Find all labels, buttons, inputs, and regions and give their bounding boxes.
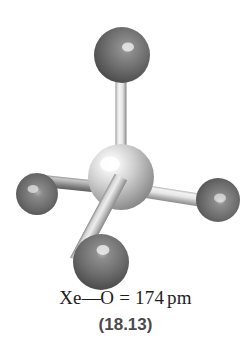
caption-block: Xe—O = 174pm (18.13) — [0, 286, 251, 336]
bond-length-dash: — — [82, 287, 101, 308]
bond-length-ligand-atom: O — [100, 287, 114, 308]
bond-length-equals: = — [119, 287, 130, 308]
figure-number: (18.13) — [0, 314, 251, 336]
central-xenon-highlight — [100, 157, 120, 172]
oxygen-bottom-sphere — [73, 234, 129, 290]
molecule-illustration — [0, 0, 251, 292]
oxygen-right-highlight — [214, 194, 226, 203]
oxygen-left-sphere — [16, 173, 58, 215]
bond-length-label: Xe—O = 174pm — [0, 286, 251, 310]
figure-container: Xe—O = 174pm (18.13) — [0, 0, 251, 343]
bond-length-central-atom: Xe — [59, 287, 82, 308]
molecule-svg — [0, 0, 251, 292]
oxygen-top-highlight — [122, 43, 134, 52]
bond-length-value: 174 — [135, 287, 164, 308]
oxygen-top-sphere — [94, 27, 150, 83]
oxygen-bottom-highlight — [97, 245, 110, 255]
bond-length-unit: pm — [167, 287, 192, 308]
oxygen-left-highlight — [28, 185, 39, 193]
